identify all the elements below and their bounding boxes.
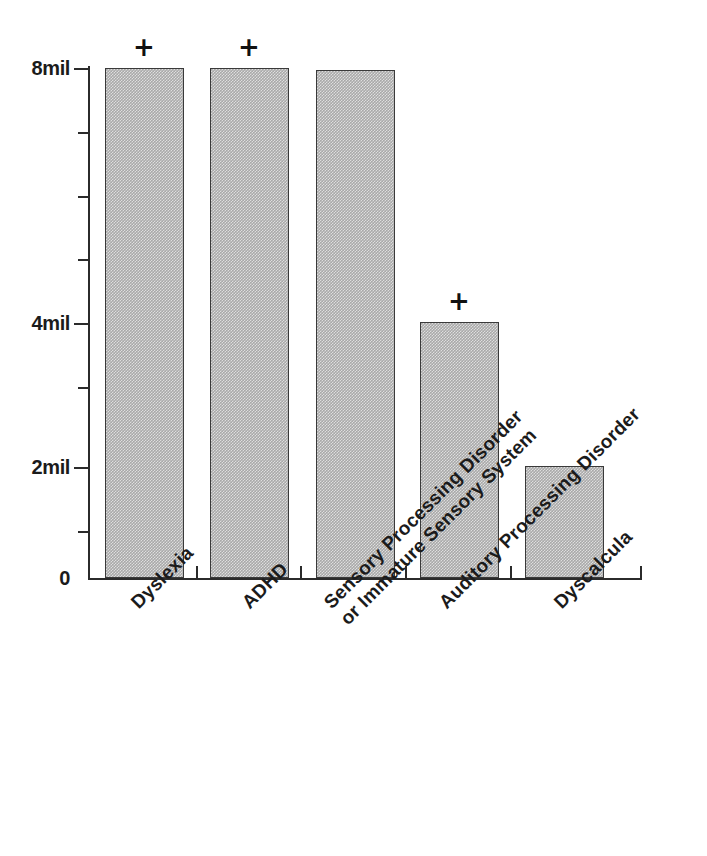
plus-marker-adhd: + [238, 34, 260, 60]
bar-chart-figure: 8mil 4mil 2mil 0 + + + Dyslexia ADHD [0, 0, 707, 856]
bar-dyslexia[interactable] [105, 68, 184, 578]
y-tick-label-8mil: 8mil [4, 58, 70, 78]
y-tick-label-4mil: 4mil [4, 313, 70, 333]
plus-marker-dyslexia: + [133, 34, 155, 60]
bar-adhd[interactable] [210, 68, 289, 578]
y-tick-label-2mil: 2mil [4, 457, 70, 477]
x-tick-5 [640, 566, 642, 579]
bar-sensory-processing-disorder[interactable] [316, 70, 395, 578]
plus-marker-auditory-processing-disorder: + [448, 288, 470, 314]
y-tick-label-0: 0 [4, 568, 70, 588]
